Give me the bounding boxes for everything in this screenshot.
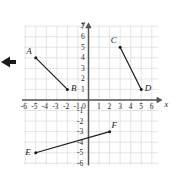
x-tick--4: -4 <box>42 103 48 111</box>
y-tick--3: -3 <box>77 128 83 136</box>
x-tick-5: 5 <box>139 103 143 111</box>
y-tick-3: 3 <box>81 65 85 73</box>
grid-lines <box>24 26 158 165</box>
y-tick-5: 5 <box>81 44 85 52</box>
coordinate-plane-svg <box>0 0 196 188</box>
y-tick-2: 2 <box>81 75 85 83</box>
y-tick--6: -6 <box>77 160 83 168</box>
y-tick--5: -5 <box>77 149 83 157</box>
y-tick--4: -4 <box>77 139 83 147</box>
x-tick-3: 3 <box>118 103 122 111</box>
point-label-a: A <box>26 47 32 56</box>
point-label-d: D <box>145 84 152 93</box>
left-arrow-pointer-icon <box>1 55 17 69</box>
x-tick-4: 4 <box>129 103 133 111</box>
y-tick-4: 4 <box>81 54 85 62</box>
point-label-e: E <box>25 148 31 157</box>
x-tick--3: -3 <box>52 103 58 111</box>
x-tick-1: 1 <box>97 103 101 111</box>
point-label-c: C <box>111 36 117 45</box>
point-label-b: B <box>71 84 77 93</box>
x-tick-6: 6 <box>150 103 154 111</box>
y-tick-1: 1 <box>81 86 85 94</box>
y-tick-6: 6 <box>81 33 85 41</box>
x-tick--6: -6 <box>21 103 27 111</box>
x-tick--5: -5 <box>31 103 37 111</box>
x-tick--2: -2 <box>63 103 69 111</box>
y-tick--1: -1 <box>77 107 83 115</box>
y-tick--2: -2 <box>77 118 83 126</box>
x-tick-2: 2 <box>108 103 112 111</box>
point-label-f: F <box>112 121 118 130</box>
x-axis-label: x <box>165 101 169 109</box>
figure-canvas: -6-5-4-3-2-112345607654321-1-2-3-4-5-6 A… <box>0 0 196 188</box>
y-axis-label: y <box>82 20 86 28</box>
